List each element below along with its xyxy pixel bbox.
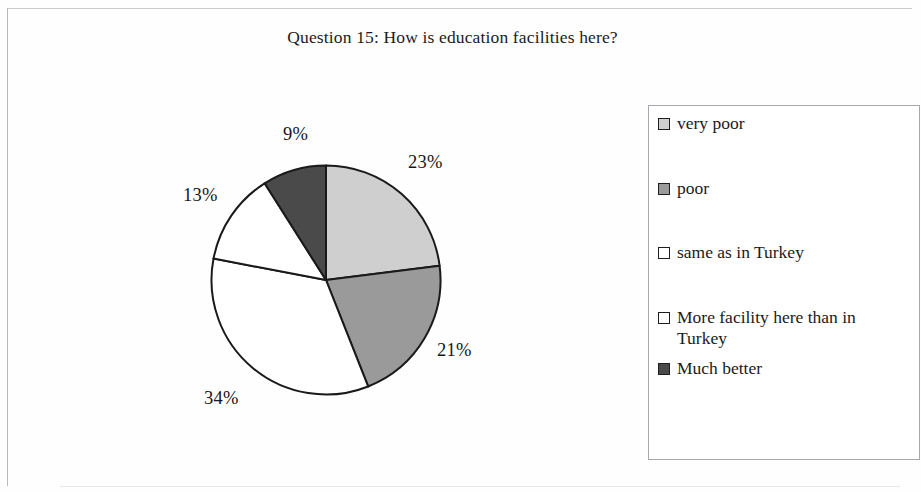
legend-item-more-facility-here-than-in-turkey[interactable]: More facility here than in Turkey <box>658 307 919 348</box>
scanned-page: Question 15: How is education facilities… <box>0 0 921 492</box>
pie-value-label-same-as-in-turkey: 34% <box>204 388 239 409</box>
legend-swatch-icon-more-facility-here-than-in-turkey <box>658 312 670 324</box>
pie-value-label-poor: 21% <box>437 340 472 361</box>
page-frame-left-border <box>7 8 8 486</box>
pie-value-label-more-facility-here: 13% <box>183 185 218 206</box>
page-frame-top-border <box>7 8 912 9</box>
legend-label-same-as-in-turkey: same as in Turkey <box>677 242 804 263</box>
pie-chart-svg <box>208 162 444 398</box>
pie-chart <box>208 162 444 398</box>
legend-label-very-poor: very poor <box>677 113 745 134</box>
chart-title: Question 15: How is education facilities… <box>0 27 905 48</box>
legend-item-same-as-in-turkey[interactable]: same as in Turkey <box>658 242 919 263</box>
pie-slice-very-poor[interactable] <box>326 166 440 281</box>
pie-slice-group <box>212 166 441 395</box>
legend-swatch-icon-poor <box>658 183 670 195</box>
legend-item-list: very poor poor same as in Turkey More fa… <box>658 113 919 379</box>
legend-label-more-facility-here-than-in-turkey: More facility here than in Turkey <box>677 307 905 348</box>
legend-item-much-better[interactable]: Much better <box>658 358 919 379</box>
page-frame-bottom-artifact <box>60 486 900 487</box>
legend-swatch-icon-same-as-in-turkey <box>658 247 670 259</box>
legend-swatch-icon-much-better <box>658 363 670 375</box>
legend-label-poor: poor <box>677 178 709 199</box>
legend-label-much-better: Much better <box>677 358 762 379</box>
legend-swatch-icon-very-poor <box>658 118 670 130</box>
legend-item-poor[interactable]: poor <box>658 178 919 199</box>
legend-item-very-poor[interactable]: very poor <box>658 113 919 134</box>
pie-value-label-much-better: 9% <box>283 124 308 145</box>
pie-value-label-very-poor: 23% <box>408 152 443 173</box>
chart-legend: very poor poor same as in Turkey More fa… <box>648 105 920 460</box>
